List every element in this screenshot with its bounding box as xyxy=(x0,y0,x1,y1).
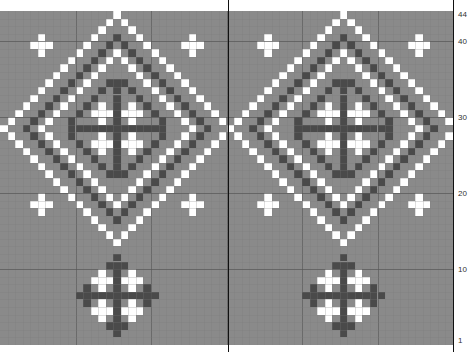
white-stitch xyxy=(106,277,114,285)
dark-stitch xyxy=(151,178,159,186)
grid-row-line xyxy=(0,322,453,323)
dark-stitch xyxy=(385,170,393,178)
dark-stitch xyxy=(264,140,272,148)
white-stitch xyxy=(181,117,189,125)
dark-stitch xyxy=(257,132,265,140)
white-stitch xyxy=(128,269,136,277)
dark-stitch xyxy=(340,34,348,42)
dark-stitch xyxy=(113,155,121,163)
white-stitch xyxy=(0,125,8,133)
white-stitch xyxy=(257,201,265,209)
grid-row-line xyxy=(0,41,453,42)
dark-stitch xyxy=(340,262,348,270)
white-stitch xyxy=(423,201,431,209)
white-stitch xyxy=(113,11,121,19)
white-stitch xyxy=(325,284,333,292)
white-stitch xyxy=(347,110,355,118)
white-stitch xyxy=(38,163,46,171)
white-stitch xyxy=(370,208,378,216)
grid-row-line xyxy=(0,254,453,255)
white-stitch xyxy=(340,49,348,57)
white-stitch xyxy=(294,95,302,103)
dark-stitch xyxy=(340,163,348,171)
white-stitch xyxy=(362,216,370,224)
dark-stitch xyxy=(121,322,129,330)
white-stitch xyxy=(121,307,129,315)
white-stitch xyxy=(53,110,61,118)
white-stitch xyxy=(189,201,197,209)
grid-row-line xyxy=(0,125,453,126)
white-stitch xyxy=(408,79,416,87)
white-stitch xyxy=(445,117,453,125)
dark-stitch xyxy=(128,125,136,133)
grid-row-line xyxy=(0,79,453,80)
grid-row-line xyxy=(0,186,453,187)
white-stitch xyxy=(174,140,182,148)
dark-stitch xyxy=(113,262,121,270)
dark-stitch xyxy=(68,132,76,140)
white-stitch xyxy=(189,87,197,95)
white-stitch xyxy=(181,132,189,140)
white-stitch xyxy=(136,110,144,118)
dark-stitch xyxy=(143,186,151,194)
dark-stitch xyxy=(151,72,159,80)
grid-row-line xyxy=(0,315,453,316)
grid-row-line xyxy=(0,277,453,278)
white-stitch xyxy=(430,148,438,156)
white-stitch xyxy=(355,26,363,34)
white-stitch xyxy=(317,140,325,148)
white-stitch xyxy=(362,34,370,42)
white-stitch xyxy=(76,163,84,171)
dark-stitch xyxy=(113,110,121,118)
grid-row-line xyxy=(0,170,453,171)
dark-stitch xyxy=(30,132,38,140)
dark-stitch xyxy=(310,64,318,72)
white-stitch xyxy=(189,163,197,171)
grid-row-line xyxy=(0,26,453,27)
dark-stitch xyxy=(279,155,287,163)
white-stitch xyxy=(98,284,106,292)
white-stitch xyxy=(385,193,393,201)
dark-stitch xyxy=(302,110,310,118)
white-stitch xyxy=(181,170,189,178)
white-stitch xyxy=(302,201,310,209)
white-stitch xyxy=(264,87,272,95)
white-stitch xyxy=(400,140,408,148)
white-stitch xyxy=(287,186,295,194)
white-stitch xyxy=(128,26,136,34)
white-stitch xyxy=(325,299,333,307)
white-stitch xyxy=(98,224,106,232)
white-stitch xyxy=(287,102,295,110)
white-stitch xyxy=(76,87,84,95)
white-stitch xyxy=(355,140,363,148)
grid-row-line xyxy=(0,337,453,338)
dark-stitch xyxy=(340,315,348,323)
dark-stitch xyxy=(370,292,378,300)
white-stitch xyxy=(264,201,272,209)
white-stitch xyxy=(317,307,325,315)
dark-stitch xyxy=(340,148,348,156)
dark-stitch xyxy=(53,95,61,103)
white-stitch xyxy=(189,193,197,201)
white-stitch xyxy=(347,140,355,148)
dark-stitch xyxy=(340,216,348,224)
grid-row-line xyxy=(0,57,453,58)
white-stitch xyxy=(408,201,416,209)
white-stitch xyxy=(355,269,363,277)
dark-stitch xyxy=(113,277,121,285)
white-stitch xyxy=(272,117,280,125)
dark-stitch xyxy=(113,79,121,87)
dark-stitch xyxy=(91,193,99,201)
white-stitch xyxy=(264,163,272,171)
dark-stitch xyxy=(310,299,318,307)
dark-stitch xyxy=(370,148,378,156)
white-stitch xyxy=(45,41,53,49)
white-stitch xyxy=(362,110,370,118)
dark-stitch xyxy=(325,201,333,209)
dark-stitch xyxy=(310,148,318,156)
dark-stitch xyxy=(340,299,348,307)
white-stitch xyxy=(317,72,325,80)
white-stitch xyxy=(257,95,265,103)
dark-stitch xyxy=(136,292,144,300)
white-stitch xyxy=(98,110,106,118)
